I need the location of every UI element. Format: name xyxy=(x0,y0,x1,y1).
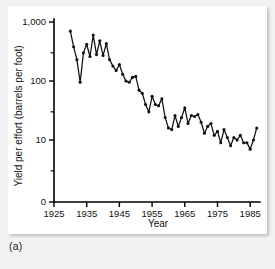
data-point xyxy=(92,34,95,37)
data-point xyxy=(249,148,252,151)
data-point xyxy=(157,104,160,107)
data-point xyxy=(82,51,85,54)
data-point xyxy=(128,81,131,84)
data-point xyxy=(170,128,173,131)
data-point xyxy=(180,116,183,119)
plot-area: 1,000100100 1925193519451955196519751985… xyxy=(8,6,267,234)
x-axis-title: Year xyxy=(148,218,169,229)
panel-caption: (a) xyxy=(9,240,22,252)
data-point xyxy=(242,141,245,144)
data-point xyxy=(154,103,157,106)
data-point xyxy=(164,116,167,119)
data-point xyxy=(121,73,124,76)
x-tick-label: 1975 xyxy=(207,208,228,219)
data-point xyxy=(239,134,242,137)
data-point xyxy=(255,126,258,129)
data-series-yield-per-effort xyxy=(69,30,258,151)
data-point xyxy=(190,114,193,117)
data-point xyxy=(200,121,203,124)
data-point xyxy=(85,43,88,46)
data-point xyxy=(134,75,137,78)
y-tick-label: 10 xyxy=(35,134,46,145)
x-tick-label: 1965 xyxy=(174,208,195,219)
data-point xyxy=(229,144,232,147)
data-point xyxy=(187,122,190,125)
data-point xyxy=(206,125,209,128)
data-point xyxy=(75,58,78,61)
data-point xyxy=(216,130,219,133)
data-point xyxy=(115,69,118,72)
x-tick-label: 1935 xyxy=(76,208,97,219)
data-point xyxy=(193,115,196,118)
data-point xyxy=(108,58,111,61)
data-point xyxy=(95,53,98,56)
data-point xyxy=(219,141,222,144)
data-point xyxy=(79,81,82,84)
x-tick-label: 1945 xyxy=(109,208,130,219)
data-point xyxy=(226,136,229,139)
data-point xyxy=(183,106,186,109)
x-axis: 1925193519451955196519751985 xyxy=(43,202,260,219)
data-point xyxy=(147,110,150,113)
data-point xyxy=(203,132,206,135)
data-point xyxy=(151,95,154,98)
data-point xyxy=(131,76,134,79)
screenshot-root: 1,000100100 1925193519451955196519751985… xyxy=(0,0,275,269)
y-axis: 1,000100100 xyxy=(22,16,54,207)
y-tick-label: 1,000 xyxy=(22,16,46,27)
data-point xyxy=(111,64,114,67)
y-tick-label: 0 xyxy=(41,196,46,207)
data-point xyxy=(98,39,101,42)
data-point xyxy=(88,55,91,58)
data-point xyxy=(232,136,235,139)
figure-card: 1,000100100 1925193519451955196519751985… xyxy=(8,6,267,234)
data-point xyxy=(252,138,255,141)
data-point xyxy=(236,138,239,141)
data-point xyxy=(141,92,144,95)
x-tick-label: 1985 xyxy=(240,208,261,219)
y-tick-label: 100 xyxy=(30,75,46,86)
data-point xyxy=(144,103,147,106)
data-point xyxy=(213,134,216,137)
data-point xyxy=(160,97,163,100)
data-point xyxy=(222,128,225,131)
data-point xyxy=(118,63,121,66)
data-point xyxy=(167,126,170,129)
data-point xyxy=(177,125,180,128)
data-point xyxy=(72,45,75,48)
data-point xyxy=(102,54,105,57)
data-point xyxy=(245,141,248,144)
yield-per-effort-line-chart: 1,000100100 1925193519451955196519751985… xyxy=(8,6,267,234)
data-point xyxy=(124,79,127,82)
y-axis-title: Yield per effort (barrels per foot) xyxy=(13,45,24,186)
series-polyline xyxy=(70,31,256,149)
data-point xyxy=(173,114,176,117)
data-point xyxy=(196,113,199,116)
data-point xyxy=(209,122,212,125)
data-point xyxy=(105,42,108,45)
data-point xyxy=(137,89,140,92)
data-point xyxy=(69,30,72,33)
x-tick-label: 1925 xyxy=(43,208,64,219)
